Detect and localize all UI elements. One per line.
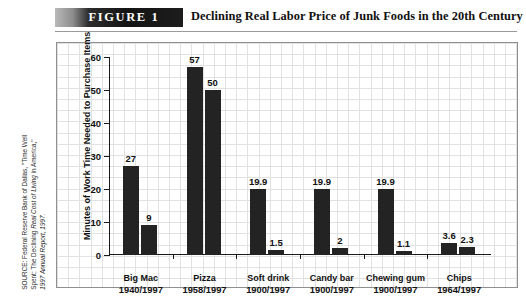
y-tick-label: 10 (90, 217, 101, 228)
bar (378, 189, 394, 255)
bar (314, 189, 330, 255)
bar (123, 166, 139, 255)
x-category-name: Pizza (193, 273, 216, 283)
bar-value-label: 2 (337, 235, 342, 246)
bar-value-label: 57 (189, 54, 200, 65)
x-category-years: 1940/1997 (119, 285, 163, 297)
group-separator (427, 254, 428, 259)
bar-value-label: 19.9 (313, 176, 332, 187)
bar (141, 225, 157, 255)
bar-value-label: 19.9 (376, 176, 395, 187)
y-tick-mark (104, 255, 110, 256)
x-category-name: Chips (447, 273, 472, 283)
group-separator (364, 254, 365, 259)
bar (250, 189, 266, 255)
x-category-name: Soft drink (247, 273, 289, 283)
bar (459, 247, 475, 255)
bar-value-label: 2.3 (461, 234, 474, 245)
bar-value-label: 1.1 (397, 238, 410, 249)
y-axis-title: Minutes of Work Time Needed to Purchase … (82, 40, 92, 240)
x-category-label: Big Mac1940/1997 (119, 273, 163, 296)
bar (396, 251, 412, 255)
plot-area: 0102030405060 279575019.91.519.9219.91.1… (109, 57, 491, 255)
y-tick-label: 50 (90, 85, 101, 96)
source-note: SOURCE: Federal Reserve Bank of Dallas, … (20, 42, 48, 290)
y-tick-label: 20 (90, 184, 101, 195)
bar-value-label: 9 (146, 212, 151, 223)
figure-number-banner: FIGURE 1 (55, 8, 183, 27)
group-separator (236, 254, 237, 259)
group-separator (300, 254, 301, 259)
x-category-label: Chewing gum1900/1997 (366, 273, 425, 296)
bar-value-label: 50 (207, 77, 218, 88)
x-category-label: Soft drink1900/1997 (246, 273, 290, 296)
x-category-years: 1900/1997 (246, 285, 290, 297)
y-tick-label: 0 (96, 250, 101, 261)
bar (332, 248, 348, 255)
figure-number-label: FIGURE 1 (79, 10, 160, 25)
group-separator (173, 254, 174, 259)
x-category-years: 1964/1997 (437, 285, 481, 297)
x-category-name: Chewing gum (366, 273, 425, 283)
bar-value-label: 27 (126, 153, 137, 164)
x-category-years: 1958/1997 (183, 285, 227, 297)
x-category-name: Big Mac (124, 273, 159, 283)
x-category-years: 1900/1997 (366, 285, 425, 297)
y-tick-label: 40 (90, 118, 101, 129)
y-tick-mark (104, 90, 110, 91)
source-line-2-tail: in America," (30, 140, 37, 176)
y-tick-label: 30 (90, 151, 101, 162)
x-category-name: Candy bar (310, 273, 354, 283)
x-category-years: 1900/1997 (310, 285, 354, 297)
y-tick-mark (104, 222, 110, 223)
x-category-label: Chips1964/1997 (437, 273, 481, 296)
x-category-label: Pizza1958/1997 (183, 273, 227, 296)
figure-title: Declining Real Labor Price of Junk Foods… (191, 9, 523, 24)
y-tick-mark (104, 189, 110, 190)
chart-frame: Minutes of Work Time Needed to Purchase … (56, 42, 518, 288)
bar (268, 250, 284, 255)
bar (441, 243, 457, 255)
y-tick-mark (104, 123, 110, 124)
source-line-1: SOURCE: Federal Reserve Bank of Dallas, … (21, 135, 28, 290)
x-category-label: Candy bar1900/1997 (310, 273, 354, 296)
header-divider (55, 31, 517, 32)
figure-header: FIGURE 1 Declining Real Labor Price of J… (0, 0, 526, 34)
source-line-2-italic: Real Cost of Living (30, 175, 37, 229)
source-line-3: 1997 Annual Report, 1997. (40, 214, 47, 290)
bar-value-label: 3.6 (443, 230, 456, 241)
bar-value-label: 1.5 (270, 237, 283, 248)
source-line-2-plain: Spent: The Declining (30, 229, 37, 290)
y-tick-mark (104, 57, 110, 58)
bar-value-label: 19.9 (249, 176, 268, 187)
y-tick-label: 60 (90, 52, 101, 63)
bar (205, 90, 221, 255)
bar (187, 67, 203, 255)
y-tick-mark (104, 156, 110, 157)
